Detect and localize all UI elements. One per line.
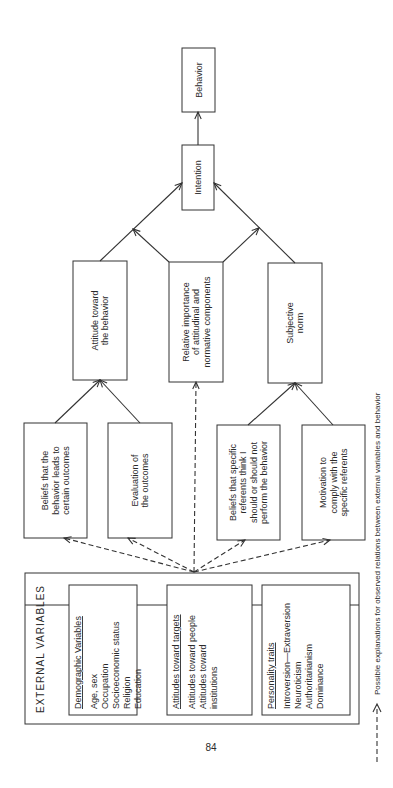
group-attitudes-targets: Attitudes toward targetsAttitudes toward… — [167, 585, 252, 715]
node-evaluation-outcomes: Evaluation ofthe outcomes — [108, 423, 172, 538]
group-item: Introversion—Extraversion — [282, 603, 292, 709]
node-label: Intention — [193, 160, 203, 195]
dashed-edges — [64, 382, 330, 572]
group-item: Neuroticism — [293, 661, 303, 709]
node-beliefs-outcomes: Beliefs that thebehavior leads tocertain… — [24, 423, 87, 538]
page-number: 84 — [205, 742, 217, 753]
dashed-to-beliefs-referents — [194, 540, 245, 572]
node-label-line: Subjective — [285, 302, 295, 344]
group-heading: Attitudes toward targets — [171, 614, 181, 709]
node-label-line: Relative importance — [181, 282, 191, 362]
group-personality: Personality traitsIntroversion—Extravers… — [262, 585, 350, 715]
group-item: Socioeconomic status — [111, 621, 121, 709]
node-label-line: should or should not — [249, 441, 259, 523]
edge-evaluation-attitude — [100, 380, 140, 423]
node-label-line: the outcomes — [140, 453, 150, 508]
node-label: Behavior — [194, 62, 204, 98]
node-label: Evaluation ofthe outcomes — [130, 453, 151, 508]
legend-text: Possible explanations for observed relat… — [373, 392, 382, 695]
node-label-line: Beliefs that the — [40, 451, 50, 511]
node-label-line: Evaluation of — [130, 454, 140, 507]
group-item: Attitudes toward people — [187, 615, 197, 709]
diagram: Behavior Intention Attitude towardthe be… — [0, 0, 393, 788]
node-subjective-norm: Subjectivenorm — [268, 263, 322, 383]
group-heading: Personality traits — [266, 642, 276, 709]
edge-referents-norm — [248, 383, 295, 425]
group-item: institutions — [209, 666, 219, 709]
node-label: Relative importanceof attitudinal andnor… — [181, 276, 212, 368]
node-label-line: behavior leads to — [51, 446, 61, 515]
node-label-line: normative components — [202, 276, 212, 368]
arrowhead-icon — [237, 540, 245, 546]
node-motivation-comply: Motivation tocomply with thespecific ref… — [302, 425, 365, 540]
node-label: Motivation tocomply with thespecific ref… — [318, 448, 349, 517]
node-relative-importance: Relative importanceof attitudinal andnor… — [169, 262, 223, 382]
node-label: Attitude towardthe behavior — [90, 290, 111, 350]
node-label: Beliefs that thebehavior leads tocertain… — [40, 446, 71, 515]
node-label-line: referents think I — [238, 451, 248, 513]
node-label-line: the behavior — [100, 296, 110, 346]
group-item: Occupation — [100, 663, 110, 709]
node-label-line: Behavior — [194, 62, 204, 98]
node-label-line: Beliefs that specific — [228, 443, 238, 521]
node-label-line: Attitude toward — [90, 290, 100, 350]
node-label: Beliefs that specificreferents think Ish… — [228, 441, 270, 524]
node-label-line: of attitudinal and — [191, 289, 201, 355]
node-label-line: certain outcomes — [61, 446, 71, 515]
group-item: Religion — [122, 676, 132, 709]
external-variable-groups: Demographic VariablesAge, sexOccupationS… — [69, 585, 350, 715]
legend: Possible explanations for observed relat… — [373, 392, 382, 762]
node-attitude-toward-behavior: Attitude towardthe behavior — [73, 261, 127, 380]
dashed-to-motivation — [194, 540, 330, 572]
external-variables-title: EXTERNAL VARIABLES — [35, 585, 46, 713]
edge-norm-intention — [214, 183, 295, 263]
group-item: Age, sex — [89, 673, 99, 709]
group-heading: Demographic Variables — [73, 616, 83, 709]
node-label-line: comply with the — [329, 451, 339, 513]
node-intention: Intention — [182, 145, 214, 210]
group-item: Authoritarianism — [304, 644, 314, 709]
edge-beliefs-attitude — [55, 380, 100, 423]
node-label-line: specific referents — [339, 448, 349, 517]
node-label-line: perform the behavior — [259, 441, 269, 524]
dashed-to-relative-importance — [194, 382, 196, 572]
edge-importance-attitude — [133, 229, 169, 262]
group-item: Education — [133, 669, 143, 709]
node-label-line: Intention — [193, 160, 203, 195]
edge-importance-norm — [223, 228, 259, 262]
group-demographic: Demographic VariablesAge, sexOccupationS… — [69, 585, 143, 715]
edge-attitude-intention — [100, 183, 182, 261]
node-label-line: norm — [295, 313, 305, 334]
node-behavior: Behavior — [182, 48, 215, 112]
dashed-to-beliefs-outcomes — [64, 538, 194, 572]
group-item: Attitudes toward — [198, 644, 208, 709]
node-label-line: Motivation to — [318, 457, 328, 508]
node-beliefs-referents: Beliefs that specificreferents think Ish… — [217, 425, 280, 540]
edge-motivation-norm — [295, 383, 333, 425]
group-item: Dominance — [315, 663, 325, 709]
dashed-to-evaluation — [128, 538, 194, 572]
